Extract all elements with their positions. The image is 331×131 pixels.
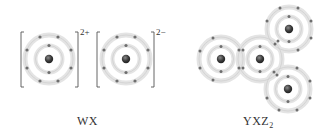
nucleus-x-icon [256, 55, 264, 63]
charge-w: 2+ [80, 27, 90, 37]
bonding-diagram [0, 0, 331, 131]
label-yxz2-text: YXZ [243, 114, 269, 128]
nucleus-z-icon [285, 25, 293, 33]
ion-x [97, 32, 154, 87]
ion-w [21, 32, 78, 87]
nucleus-icon [122, 55, 130, 63]
nucleus-z-icon [284, 85, 292, 93]
label-wx-text: WX [77, 114, 98, 128]
charge-x: 2− [156, 27, 166, 37]
label-yxz2: YXZ2 [243, 114, 274, 130]
nucleus-icon [45, 55, 53, 63]
diagram-stage: 2+ 2− WX YXZ2 [0, 0, 331, 131]
label-yxz2-subscript: 2 [269, 121, 274, 130]
label-wx: WX [77, 114, 98, 129]
molecule-yxz2 [199, 7, 313, 112]
nucleus-y-icon [217, 55, 225, 63]
electrons [199, 7, 313, 112]
